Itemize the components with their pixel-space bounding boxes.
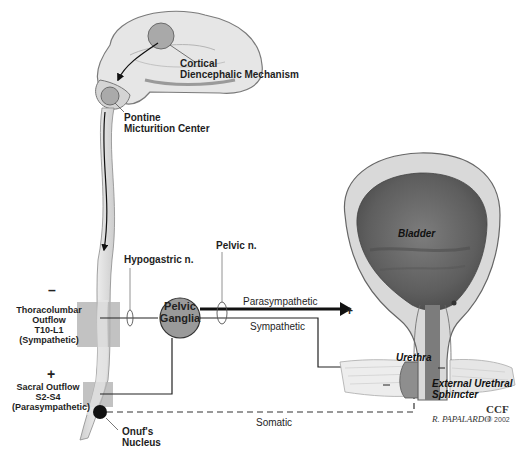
pelvic-nerve-label: Pelvic n. [216,240,257,251]
parasympathetic-label: Parasympathetic [243,296,317,307]
onufs-nucleus [93,405,107,419]
pelvic-nerve-loop [217,302,227,324]
pontine-label: Pontine Micturition Center [124,112,210,134]
sympathetic-label: Sympathetic [250,321,305,332]
sacral-sign: + [47,366,55,382]
sphincter-label: External Urethral Sphincter [432,378,513,400]
cortical-label: Cortical Diencephalic Mechanism [180,58,299,80]
onufs-line1: Onuf's [122,426,161,437]
sphincter-line1: External Urethral [432,378,513,389]
thoracolumbar-line4: (Sympathetic) [14,335,84,345]
thoracolumbar-line3: T10-L1 [14,325,84,335]
pelvic-ganglia-label: Pelvic Ganglia [150,300,210,324]
sacral-line1: Sacral Outflow [12,382,84,392]
onufs-line2: Nucleus [122,437,161,448]
sacral-line2: S2-S4 [12,392,84,402]
pontine-nucleus [101,87,119,105]
bladder-label: Bladder [398,228,435,239]
cortical-label-line1: Cortical [180,58,299,69]
thoracolumbar-label: Thoracolumbar Outflow T10-L1 (Sympatheti… [14,305,84,345]
copyright: © 2002 [487,416,510,423]
urethra-label: Urethra [396,352,432,363]
pontine-label-line2: Micturition Center [124,123,210,134]
bladder-sign: + [346,304,353,318]
somatic-label: Somatic [256,417,292,428]
ganglia-line1: Pelvic [150,300,210,312]
hypogastric-label: Hypogastric n. [124,254,193,265]
sacral-label: Sacral Outflow S2-S4 (Parasympathetic) [12,382,84,412]
sphincter-line2: Sphincter [432,389,513,400]
onufs-label: Onuf's Nucleus [122,426,161,448]
pontine-label-line1: Pontine [124,112,210,123]
thoracolumbar-sign: – [48,282,56,298]
thoracolumbar-line2: Outflow [14,315,84,325]
ganglia-line2: Ganglia [150,312,210,324]
cortical-label-line2: Diencephalic Mechanism [180,69,299,80]
artist-signature: R. PAPALARDO [432,414,491,424]
sacral-line3: (Parasympathetic) [12,402,84,412]
thoracolumbar-line1: Thoracolumbar [14,305,84,315]
